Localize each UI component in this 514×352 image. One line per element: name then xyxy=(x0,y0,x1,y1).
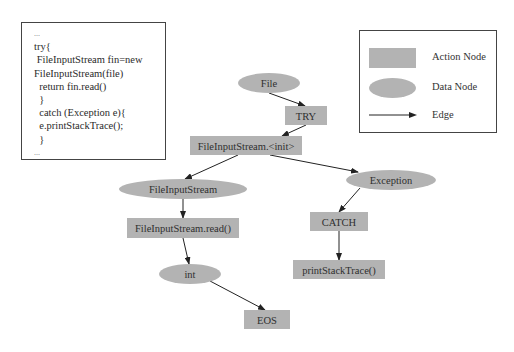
action-node-catch: CATCH xyxy=(310,212,368,231)
svg-text:printStackTrace(): printStackTrace() xyxy=(302,265,376,277)
edge-try-fisinit xyxy=(282,125,306,136)
data-node-int: int xyxy=(159,264,221,284)
svg-text:FileInputStream: FileInputStream xyxy=(149,184,217,195)
svg-text:int: int xyxy=(184,269,195,280)
action-node-printstacktrace: printStackTrace() xyxy=(293,260,385,279)
svg-text:CATCH: CATCH xyxy=(322,217,357,228)
edge-int-eos xyxy=(210,281,265,310)
svg-text:Exception: Exception xyxy=(370,175,413,186)
data-node-exception: Exception xyxy=(346,170,436,190)
data-node-file: File xyxy=(238,73,300,93)
action-node-try: TRY xyxy=(285,106,327,125)
svg-text:EOS: EOS xyxy=(257,315,277,326)
svg-text:FileInputStream.<init>: FileInputStream.<init> xyxy=(198,141,295,152)
data-node-fileinputstream: FileInputStream xyxy=(119,179,247,199)
action-node-eos: EOS xyxy=(244,310,290,329)
svg-text:TRY: TRY xyxy=(296,111,317,122)
action-node-fis-init: FileInputStream.<init> xyxy=(190,136,302,155)
edge-fisinit-exception xyxy=(270,155,358,172)
edge-file-try xyxy=(269,93,305,106)
action-node-fis-read: FileInputStream.read() xyxy=(127,218,239,238)
edge-exception-catch xyxy=(339,188,360,212)
edge-fisinit-fis xyxy=(185,155,238,179)
api-usage-graph: File TRY FileInputStream.<init> FileInpu… xyxy=(0,0,514,352)
edge-fisread-int xyxy=(183,238,189,264)
svg-text:File: File xyxy=(261,78,278,89)
svg-text:FileInputStream.read(): FileInputStream.read() xyxy=(135,223,231,235)
